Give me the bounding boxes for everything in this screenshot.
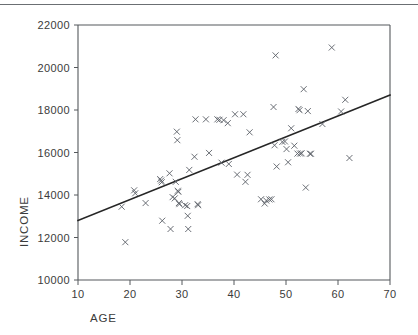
data-point-marker: [184, 203, 190, 209]
x-tick-label-1: 20: [123, 288, 136, 300]
data-point-marker: [174, 137, 180, 143]
data-point-marker: [143, 200, 149, 206]
data-point-marker: [284, 146, 290, 152]
x-axis-ticks: 10 20 30 40 50 60 70: [71, 280, 396, 300]
data-point-marker: [193, 116, 199, 122]
y-axis-title: INCOME: [18, 196, 30, 247]
y-tick-label-1: 12000: [37, 232, 70, 244]
y-tick-label-2: 14000: [37, 189, 70, 201]
data-point-marker: [185, 226, 191, 232]
data-point-marker: [271, 104, 277, 110]
data-point-marker: [232, 111, 238, 117]
y-axis-ticks: 10000 12000 14000 16000 18000 20000 2200…: [37, 19, 78, 286]
figure-page: 10000 12000 14000 16000 18000 20000 2200…: [0, 0, 418, 335]
data-point-marker: [307, 151, 313, 157]
data-point-marker: [203, 116, 209, 122]
data-point-marker: [303, 185, 309, 191]
data-point-marker: [301, 86, 307, 92]
data-point-marker: [167, 170, 173, 176]
data-point-marker: [119, 204, 125, 210]
x-axis-title: AGE: [90, 312, 117, 324]
y-tick-label-3: 16000: [37, 147, 70, 159]
y-tick-label-0: 10000: [37, 274, 70, 286]
data-point-marker: [291, 143, 297, 149]
data-point-marker: [273, 52, 279, 58]
data-point-marker: [234, 172, 240, 178]
data-point-marker: [182, 202, 188, 208]
data-point-marker: [274, 164, 280, 170]
data-point-marker: [240, 111, 246, 117]
data-point-marker: [308, 151, 314, 157]
data-point-marker: [346, 155, 352, 161]
data-point-marker: [206, 150, 212, 156]
data-point-marker: [174, 129, 180, 135]
y-tick-label-4: 18000: [37, 104, 70, 116]
x-tick-label-0: 10: [71, 288, 84, 300]
data-point-marker: [305, 108, 311, 114]
x-tick-label-6: 70: [383, 288, 396, 300]
x-tick-label-5: 60: [331, 288, 344, 300]
data-point-marker: [288, 125, 294, 131]
data-point-marker: [338, 108, 344, 114]
data-point-marker: [191, 154, 197, 160]
data-point-marker: [168, 226, 174, 232]
x-tick-label-2: 30: [175, 288, 188, 300]
y-tick-label-6: 22000: [37, 19, 70, 31]
scatter-markers-group: [119, 45, 353, 246]
data-point-marker: [221, 117, 227, 123]
data-point-marker: [245, 172, 251, 178]
scatter-plot-figure: 10000 12000 14000 16000 18000 20000 2200…: [0, 0, 418, 335]
data-point-marker: [247, 129, 253, 135]
data-point-marker: [170, 194, 176, 200]
data-point-marker: [159, 218, 165, 224]
data-point-marker: [225, 120, 231, 126]
data-point-marker: [186, 167, 192, 173]
data-point-marker: [226, 161, 232, 167]
data-point-marker: [329, 45, 335, 51]
data-point-marker: [285, 159, 291, 165]
x-tick-label-4: 50: [279, 288, 292, 300]
data-point-marker: [342, 97, 348, 103]
data-point-marker: [272, 142, 278, 148]
data-point-marker: [122, 239, 128, 245]
y-tick-label-5: 20000: [37, 62, 70, 74]
data-point-marker: [242, 179, 248, 185]
data-point-marker: [185, 213, 191, 219]
x-tick-label-3: 40: [227, 288, 240, 300]
